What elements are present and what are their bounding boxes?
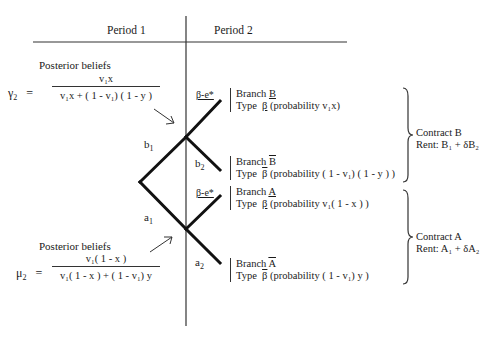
posterior-beliefs-title-top: Posterior beliefs: [39, 59, 111, 71]
branch-a-under: Branch A Type β (probability v₁( 1 - x )…: [230, 186, 369, 210]
arrow-icon: [150, 109, 174, 252]
mu-2-denominator: v₁( 1 - x ) + ( 1 - v₁) y: [52, 266, 160, 281]
period-2-header: Period 2: [214, 24, 253, 36]
contract-brace-icon: [403, 88, 413, 284]
branch-b-under: Branch B Type β (probability v₁x): [230, 88, 340, 112]
edge-label-a2: a2: [195, 256, 204, 271]
posterior-beliefs-title-bottom: Posterior beliefs: [39, 240, 111, 252]
gamma-2-label: γ2 =: [8, 86, 33, 102]
mu-2-label: μ2 =: [16, 266, 42, 282]
gamma-2-fraction: v₁x v₁x + ( 1 - v₁) ( 1 - y ): [52, 73, 160, 101]
contract-a-name: Contract A: [416, 231, 479, 243]
edge-label-b2: b2: [195, 157, 205, 172]
game-tree-branches: [140, 101, 220, 263]
contract-a-rent: Rent: A₁ + δA₂: [416, 243, 479, 255]
edge-label-b1: b1: [144, 138, 154, 153]
contract-a: Contract A Rent: A₁ + δA₂: [416, 231, 479, 255]
contract-b-name: Contract B: [416, 127, 479, 139]
branch-a-over: Branch A Type β (probability ( 1 - v₁) y…: [230, 258, 369, 282]
effort-label-lower: β-e*: [196, 187, 214, 198]
contract-b-rent: Rent: B₁ + δB₂: [416, 139, 479, 151]
gamma-2-denominator: v₁x + ( 1 - v₁) ( 1 - y ): [52, 86, 160, 101]
contract-b: Contract B Rent: B₁ + δB₂: [416, 127, 479, 151]
mu-2-numerator: v₁( 1 - x ): [52, 253, 160, 266]
branch-b-over: Branch B Type β (probability ( 1 - v₁) (…: [230, 156, 395, 180]
gamma-2-numerator: v₁x: [52, 73, 160, 86]
edge-label-a1: a1: [144, 211, 153, 226]
period-1-header: Period 1: [107, 24, 146, 36]
effort-label-upper: β-e*: [196, 89, 214, 100]
mu-2-fraction: v₁( 1 - x ) v₁( 1 - x ) + ( 1 - v₁) y: [52, 253, 160, 281]
